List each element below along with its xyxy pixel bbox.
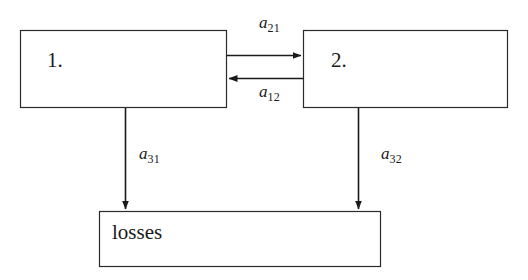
diagram-canvas: 1. 2. losses a21 a12 a31 a32: [0, 0, 528, 280]
edge-label-a21-symbol: a: [259, 13, 268, 32]
edge-label-a31: a31: [139, 145, 160, 165]
edge-label-a21-subscript: 21: [268, 21, 280, 35]
edge-label-a12-subscript: 12: [268, 90, 280, 104]
edge-label-a21: a21: [259, 14, 280, 34]
node-label-2: 2.: [331, 50, 347, 71]
node-label-losses: losses: [112, 222, 162, 243]
edge-label-a12: a12: [259, 83, 280, 103]
edge-label-a32-subscript: 32: [390, 152, 402, 166]
edge-label-a32-symbol: a: [381, 144, 390, 163]
edge-label-a31-symbol: a: [139, 144, 148, 163]
diagram-vector-layer: [0, 0, 528, 280]
node-label-1: 1.: [47, 50, 63, 71]
edge-label-a32: a32: [381, 145, 402, 165]
edge-label-a12-symbol: a: [259, 82, 268, 101]
edge-label-a31-subscript: 31: [148, 152, 160, 166]
